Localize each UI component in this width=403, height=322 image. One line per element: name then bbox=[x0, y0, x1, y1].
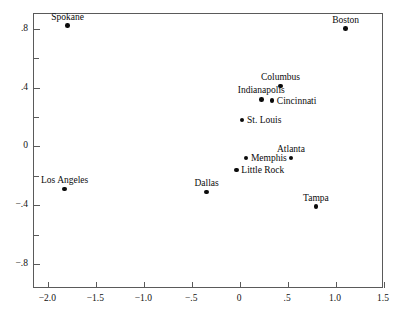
y-tick-label: .4 bbox=[6, 82, 28, 92]
data-point-label: St. Louis bbox=[247, 115, 281, 125]
data-point[interactable] bbox=[62, 187, 67, 192]
x-tick-mark bbox=[384, 282, 385, 288]
scatter-plot-figure: SpokaneBostonColumbusIndianapolisCincinn… bbox=[0, 0, 403, 322]
data-point-label: Columbus bbox=[261, 72, 300, 82]
data-point[interactable] bbox=[204, 190, 209, 195]
y-tick-mark bbox=[33, 29, 40, 30]
x-tick-label: .5 bbox=[284, 293, 291, 303]
y-tick-mark bbox=[33, 88, 40, 89]
y-tick-mark bbox=[33, 117, 39, 118]
data-point-label: Memphis bbox=[251, 153, 287, 163]
y-tick-label: −.4 bbox=[6, 199, 28, 209]
x-tick-mark bbox=[96, 282, 97, 288]
data-point-label: Tampa bbox=[303, 193, 329, 203]
data-point[interactable] bbox=[234, 168, 239, 173]
data-point-label: Boston bbox=[332, 15, 359, 25]
data-point[interactable] bbox=[289, 156, 294, 161]
x-tick-label: −2.0 bbox=[39, 293, 56, 303]
y-tick-label: 0 bbox=[6, 140, 28, 150]
data-point-label: Spokane bbox=[51, 12, 84, 22]
y-tick-mark bbox=[33, 146, 40, 147]
y-tick-mark bbox=[33, 58, 39, 59]
y-tick-label: .8 bbox=[6, 23, 28, 33]
y-tick-mark bbox=[33, 235, 39, 236]
data-point-label: Los Angeles bbox=[41, 175, 88, 185]
data-point[interactable] bbox=[259, 97, 264, 102]
data-point[interactable] bbox=[270, 98, 275, 103]
data-point-label: Dallas bbox=[194, 178, 218, 188]
data-point-label: Cincinnati bbox=[277, 96, 317, 106]
x-tick-label: −.5 bbox=[185, 293, 197, 303]
x-tick-mark bbox=[240, 282, 241, 288]
x-tick-label: 1.0 bbox=[329, 293, 341, 303]
data-point[interactable] bbox=[240, 118, 245, 123]
x-tick-mark bbox=[336, 282, 337, 288]
y-tick-mark bbox=[33, 176, 39, 177]
data-point[interactable] bbox=[65, 23, 70, 28]
data-point-label: Little Rock bbox=[241, 165, 284, 175]
x-tick-label: 0 bbox=[237, 293, 242, 303]
x-tick-mark bbox=[192, 282, 193, 288]
x-tick-mark bbox=[144, 282, 145, 288]
x-tick-label: 1.5 bbox=[377, 293, 389, 303]
y-tick-label: −.8 bbox=[6, 258, 28, 268]
x-tick-mark bbox=[48, 282, 49, 288]
data-point[interactable] bbox=[244, 156, 249, 161]
y-tick-mark bbox=[33, 264, 40, 265]
y-tick-mark bbox=[33, 205, 40, 206]
plot-frame: SpokaneBostonColumbusIndianapolisCincinn… bbox=[33, 13, 383, 288]
x-tick-label: −1.0 bbox=[135, 293, 152, 303]
x-tick-mark bbox=[288, 282, 289, 288]
data-point[interactable] bbox=[343, 26, 348, 31]
x-tick-label: −1.5 bbox=[87, 293, 104, 303]
data-point-label: Indianapolis bbox=[238, 85, 285, 95]
data-point[interactable] bbox=[314, 204, 319, 209]
